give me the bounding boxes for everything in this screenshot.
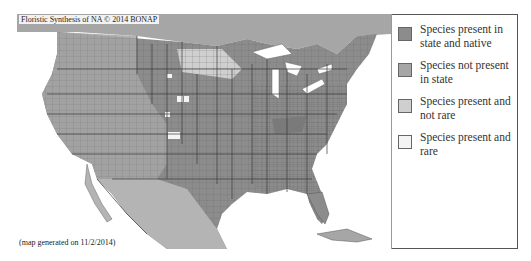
north-america-map <box>17 14 392 249</box>
legend-label: Species present and rare <box>420 130 516 158</box>
legend-label: Species not present in state <box>420 58 516 86</box>
legend-label: Species present and not rare <box>420 94 516 122</box>
legend-swatch-present-not-rare <box>398 99 412 113</box>
legend-label: Species present in state and native <box>420 22 516 50</box>
distribution-map: Floristic Synthesis of NA © 2014 BONAP (… <box>17 14 392 249</box>
legend-swatch-native <box>398 27 412 41</box>
map-legend: Species present in state and native Spec… <box>398 22 516 166</box>
legend-item-present-not-rare: Species present and not rare <box>398 94 516 122</box>
legend-item-present-rare: Species present and rare <box>398 130 516 158</box>
legend-swatch-present-rare <box>398 135 412 149</box>
legend-swatch-not-present <box>398 63 412 77</box>
legend-item-native: Species present in state and native <box>398 22 516 50</box>
legend-item-not-present: Species not present in state <box>398 58 516 86</box>
map-generated-date: (map generated on 11/2/2014) <box>19 238 115 247</box>
map-credit: Floristic Synthesis of NA © 2014 BONAP <box>19 15 159 24</box>
